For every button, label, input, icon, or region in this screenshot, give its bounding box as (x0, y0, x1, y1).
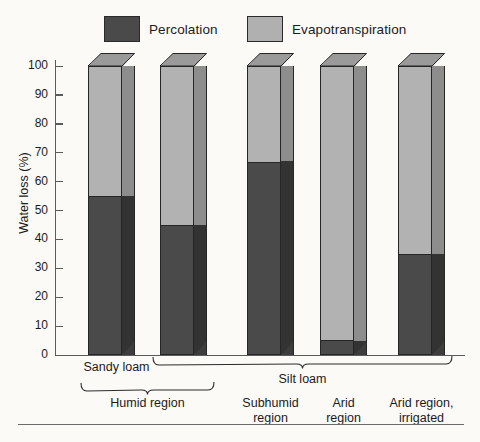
bar-segment-evapotranspiration (321, 67, 353, 340)
bar-column (88, 53, 135, 355)
bar-side-face (122, 66, 135, 355)
bar-side-segment-percolation (432, 254, 444, 355)
bar-column (160, 53, 207, 355)
bar-column (247, 53, 294, 355)
bar-column (398, 53, 445, 355)
bar-front-face (160, 66, 194, 355)
bar-side-segment-evapotranspiration (194, 66, 206, 225)
bottom-divider-rule (18, 424, 464, 425)
bar-front-face (398, 66, 432, 355)
bar-segment-evapotranspiration (89, 67, 121, 196)
bar-top-face (320, 53, 367, 66)
bar-side-segment-percolation (122, 196, 134, 355)
bar-side-segment-percolation (354, 341, 366, 355)
bar-front-face (247, 66, 281, 355)
bar-side-segment-percolation (281, 161, 293, 355)
bar-side-segment-evapotranspiration (354, 66, 366, 341)
bar-front-face (320, 66, 354, 355)
bar-side-face (354, 66, 367, 355)
bar-side-segment-evapotranspiration (281, 66, 293, 161)
bar-series-group (0, 0, 480, 442)
bar-side-segment-percolation (194, 225, 206, 355)
bar-segment-percolation (89, 196, 121, 354)
bar-side-face (432, 66, 445, 355)
bar-top-face (398, 53, 445, 66)
bar-side-segment-evapotranspiration (122, 66, 134, 196)
bar-top-face (247, 53, 294, 66)
bar-segment-evapotranspiration (161, 67, 193, 225)
bar-segment-percolation (161, 225, 193, 354)
bar-side-face (281, 66, 294, 355)
bar-segment-percolation (248, 162, 280, 354)
figure-stacked-bar-chart: Percolation Evapotranspiration Water los… (0, 0, 480, 442)
bar-top-face (88, 53, 135, 66)
bar-front-face (88, 66, 122, 355)
bar-side-face (194, 66, 207, 355)
bar-segment-percolation (399, 254, 431, 354)
bar-column (320, 53, 367, 355)
bar-top-face (160, 53, 207, 66)
bar-side-segment-evapotranspiration (432, 66, 444, 254)
bar-segment-evapotranspiration (399, 67, 431, 254)
bar-segment-evapotranspiration (248, 67, 280, 162)
bar-segment-percolation (321, 340, 353, 354)
